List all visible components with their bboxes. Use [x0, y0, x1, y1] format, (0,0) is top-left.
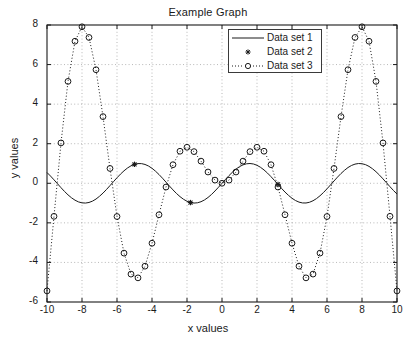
legend-dotted-circle-symbol — [231, 59, 265, 73]
legend-item-0[interactable]: Data set 1 — [229, 31, 321, 45]
x-tick-label: 6 — [310, 304, 344, 315]
x-tick-label: -6 — [100, 304, 134, 315]
x-tick-label: 4 — [275, 304, 309, 315]
plot-area — [0, 0, 416, 343]
x-tick-label: -8 — [65, 304, 99, 315]
legend-item-1[interactable]: Data set 2 — [229, 45, 321, 59]
legend-label-1: Data set 2 — [267, 45, 313, 59]
x-tick-label: -2 — [170, 304, 204, 315]
legend-star-symbol — [231, 45, 265, 59]
y-tick-label: 2 — [8, 137, 38, 148]
y-tick-label: 4 — [8, 97, 38, 108]
legend-line-symbol — [231, 31, 265, 45]
legend-label-0: Data set 1 — [267, 31, 313, 45]
y-tick-label: -2 — [8, 216, 38, 227]
y-tick-label: 6 — [8, 58, 38, 69]
x-tick-label: 10 — [380, 304, 414, 315]
y-tick-label: 8 — [8, 18, 38, 29]
y-tick-label: 0 — [8, 176, 38, 187]
legend-label-2: Data set 3 — [267, 59, 313, 73]
x-tick-label: 8 — [345, 304, 379, 315]
x-tick-label: 0 — [205, 304, 239, 315]
y-tick-label: -4 — [8, 255, 38, 266]
legend[interactable]: Data set 1 Data set 2 Data set 3 — [228, 29, 322, 73]
x-tick-label: -4 — [135, 304, 169, 315]
legend-item-2[interactable]: Data set 3 — [229, 59, 321, 73]
figure-canvas: Example Graph y values x values -10-8-6-… — [0, 0, 416, 343]
y-tick-label: -6 — [8, 295, 38, 306]
x-tick-label: 2 — [240, 304, 274, 315]
